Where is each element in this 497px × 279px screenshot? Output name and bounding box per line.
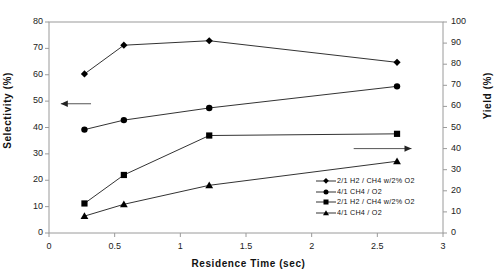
x-axis-tick-label: 0 xyxy=(29,241,69,251)
data-point-circle xyxy=(81,126,87,132)
y-axis-left-tick-label: 10 xyxy=(15,201,43,211)
data-series-line xyxy=(84,41,397,74)
x-axis-tick-label: 3 xyxy=(423,241,463,251)
x-axis-tick-label: 1.5 xyxy=(226,241,266,251)
y-axis-left-tick-label: 50 xyxy=(15,95,43,105)
y-axis-right-tick-label: 60 xyxy=(451,100,461,110)
data-series-line xyxy=(84,86,397,129)
legend-item: 4/1 CH4 / O2 xyxy=(316,208,415,219)
y-axis-right-tick-label: 90 xyxy=(451,37,461,47)
legend-item-label: 2/1 H2 / CH4 w/2% O2 xyxy=(336,176,415,187)
legend-marker-circle-icon xyxy=(316,187,336,198)
data-point-square xyxy=(121,172,127,178)
data-point-circle xyxy=(206,105,212,111)
chart-container: Selectivity (%) Yield (%) Residence Time… xyxy=(0,0,497,279)
legend-item-label: 4/1 CH4 / O2 xyxy=(336,187,382,198)
right-axis-arrow xyxy=(354,145,412,151)
data-point-circle xyxy=(394,83,400,89)
legend-marker-diamond-icon xyxy=(316,176,336,187)
legend-item-label: 2/1 H2 / CH4 w/2% O2 xyxy=(336,197,415,208)
y-axis-right-tick-label: 100 xyxy=(451,16,466,26)
y-axis-right-tick-label: 10 xyxy=(451,206,461,216)
y-axis-right-tick-label: 40 xyxy=(451,143,461,153)
plot-area xyxy=(0,0,497,279)
legend-item: 2/1 H2 / CH4 w/2% O2 xyxy=(316,176,415,187)
left-axis-arrow xyxy=(61,101,91,107)
y-axis-right-tick-label: 50 xyxy=(451,122,461,132)
data-point-diamond xyxy=(120,42,127,49)
y-axis-right-tick-label: 70 xyxy=(451,79,461,89)
y-axis-left-tick-label: 20 xyxy=(15,174,43,184)
x-axis-tick-label: 1 xyxy=(160,241,200,251)
data-point-square xyxy=(206,132,212,138)
data-point-circle xyxy=(121,117,127,123)
data-point-diamond xyxy=(206,37,213,44)
legend-item: 4/1 CH4 / O2 xyxy=(316,187,415,198)
y-axis-right-tick-label: 30 xyxy=(451,164,461,174)
data-point-square xyxy=(394,131,400,137)
y-axis-right-tick-label: 0 xyxy=(451,227,456,237)
data-point-square xyxy=(81,200,87,206)
data-point-diamond xyxy=(393,59,400,66)
y-axis-right-tick-label: 20 xyxy=(451,185,461,195)
y-axis-left-tick-label: 0 xyxy=(15,227,43,237)
legend-marker-triangle-icon xyxy=(316,208,336,219)
x-axis-tick-label: 2 xyxy=(292,241,332,251)
x-axis-tick-label: 0.5 xyxy=(95,241,135,251)
y-axis-left-tick-label: 60 xyxy=(15,69,43,79)
y-axis-left-tick-label: 40 xyxy=(15,122,43,132)
x-axis-tick-label: 2.5 xyxy=(357,241,397,251)
chart-legend: 2/1 H2 / CH4 w/2% O2 4/1 CH4 / O2 2/1 H2… xyxy=(316,176,415,218)
legend-item: 2/1 H2 / CH4 w/2% O2 xyxy=(316,197,415,208)
data-point-diamond xyxy=(81,70,88,77)
data-point-triangle xyxy=(393,157,401,164)
y-axis-right-tick-label: 80 xyxy=(451,58,461,68)
y-axis-left-tick-label: 30 xyxy=(15,148,43,158)
y-axis-left-tick-label: 70 xyxy=(15,42,43,52)
legend-item-label: 4/1 CH4 / O2 xyxy=(336,208,382,219)
legend-marker-square-icon xyxy=(316,197,336,208)
y-axis-left-tick-label: 80 xyxy=(15,16,43,26)
